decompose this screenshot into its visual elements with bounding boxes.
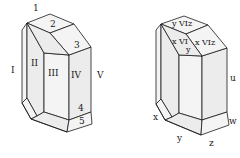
label-w: w — [229, 116, 237, 126]
label-z: z — [209, 138, 214, 148]
crystal-diagrams: 1 2 3 4 5 I II III IV V y VIz x VI x VIz… — [0, 0, 240, 158]
face-left-strip — [156, 24, 161, 104]
label-4: 4 — [78, 103, 84, 113]
left-crystal: 1 2 3 4 5 I II III IV V — [11, 3, 104, 132]
label-2: 2 — [50, 19, 56, 29]
label-y-vi-z: y VIz — [171, 19, 192, 28]
label-x: x — [153, 112, 158, 122]
label-II: II — [31, 58, 39, 68]
right-crystal: y VIz x VI x VIz y u x y z w — [153, 16, 237, 148]
face-right-u — [202, 48, 227, 120]
face-I-strip — [22, 23, 27, 103]
label-5: 5 — [79, 116, 85, 126]
label-IV: IV — [71, 70, 82, 80]
label-y: y — [176, 133, 183, 143]
face-III — [44, 53, 69, 120]
label-u: u — [230, 73, 236, 83]
label-y-mid: y — [185, 45, 191, 54]
label-1: 1 — [33, 3, 39, 13]
label-3: 3 — [74, 40, 80, 50]
label-III: III — [48, 68, 59, 78]
face-front — [179, 55, 202, 120]
label-V: V — [96, 70, 104, 80]
label-x-vi-z: x VIz — [195, 38, 215, 47]
label-I: I — [11, 65, 15, 75]
